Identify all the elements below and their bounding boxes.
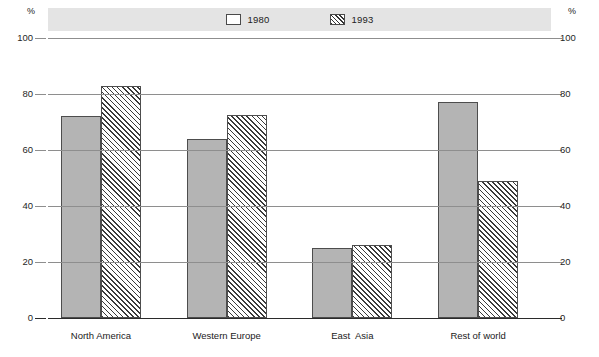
percent-symbol-left: % [27,6,35,16]
gridline-40 [48,206,551,207]
bar-1993-western-europe [227,115,267,318]
gridline-20 [48,262,551,263]
tick-stub-l-80 [35,94,46,95]
legend-item-1993: 1993 [330,14,374,25]
y-tick-label-right-80: 80 [560,89,571,99]
y-tick-label-left-100: 100 [0,33,33,43]
legend-swatch-hatch-icon [330,14,345,25]
tick-stub-l-100 [35,38,46,39]
y-tick-label-left-20: 20 [0,257,33,267]
y-tick-label-right-0: 0 [560,313,565,323]
percent-symbol-right: % [568,6,576,16]
bar-1993-east-asia [352,245,392,318]
bars-layer [48,38,551,318]
tick-stub-l-0 [35,318,46,319]
y-tick-label-left-80: 80 [0,89,33,99]
gridline-0 [48,318,551,319]
x-axis-label-north-america: North America [71,330,131,341]
legend-item-1980: 1980 [226,14,270,25]
gridline-80 [48,94,551,95]
tick-stub-l-60 [35,150,46,151]
y-tick-label-right-60: 60 [560,145,571,155]
bar-1980-east-asia [312,248,352,318]
x-axis-label-western-europe: Western Europe [192,330,260,341]
legend-label-1980: 1980 [248,14,270,25]
x-axis-label-east-asia: East Asia [331,330,373,341]
bar-chart: % % 1980 1993 002020404060608080100100 N… [0,0,599,357]
bar-1980-western-europe [187,139,227,318]
gridline-60 [48,150,551,151]
chart-legend: 1980 1993 [48,8,551,31]
bar-1993-rest-of-world [478,181,518,318]
y-tick-label-left-40: 40 [0,201,33,211]
bar-1993-north-america [101,86,141,318]
y-tick-label-right-20: 20 [560,257,571,267]
y-tick-label-right-40: 40 [560,201,571,211]
y-tick-label-left-0: 0 [0,313,33,323]
plot-area [48,38,551,318]
x-axis-label-rest-of-world: Rest of world [450,330,505,341]
bar-1980-north-america [61,116,101,318]
gridline-100 [48,38,551,39]
y-tick-label-right-100: 100 [560,33,576,43]
legend-swatch-solid-icon [226,14,241,25]
tick-stub-l-20 [35,262,46,263]
y-tick-label-left-60: 60 [0,145,33,155]
legend-label-1993: 1993 [352,14,374,25]
tick-stub-l-40 [35,206,46,207]
bar-1980-rest-of-world [438,102,478,318]
